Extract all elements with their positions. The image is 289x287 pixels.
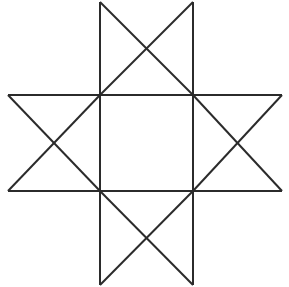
figure-canvas: Eight-pointed star formed by two overlap… [0, 0, 289, 287]
canvas-background [0, 0, 289, 287]
eight-pointed-star-figure: Eight-pointed star formed by two overlap… [0, 0, 289, 287]
